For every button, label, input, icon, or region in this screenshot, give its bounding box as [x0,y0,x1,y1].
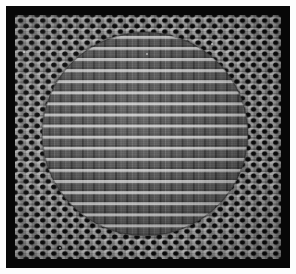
page-margin-bottom [0,268,296,274]
circle-shading [42,32,248,236]
outer-frame [6,6,290,268]
central-circular-region [42,32,248,236]
device-panel [15,15,281,259]
page-margin-right [290,0,296,274]
image-canvas: Grayscale micrograph of a rectangular mi… [0,0,296,274]
